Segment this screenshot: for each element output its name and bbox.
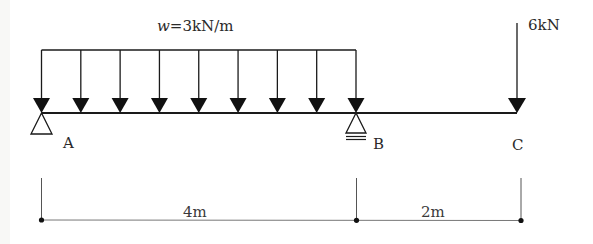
point-load-label: 6kN [528,16,560,34]
load-arrowhead-icon [33,98,50,113]
point-label-a: A [62,134,74,152]
load-arrows [33,50,365,113]
dimension-label-ab: 4m [183,203,207,221]
dim-dot-b [354,218,359,223]
dim-dot-a [39,217,44,222]
distributed-load [33,50,365,113]
load-arrowhead-icon [269,98,286,113]
load-arrowhead-icon [190,98,207,113]
load-arrowhead-icon [72,98,89,113]
load-arrowhead-icon [112,98,129,113]
load-arrowhead-icon [348,98,365,113]
roller-support-b [346,113,366,140]
pin-support-a [31,113,52,134]
distributed-load-label: w=3kN/m [157,17,233,35]
beam-diagram: w=3kN/m 6kN A B C 4m 2m [0,0,593,244]
load-arrowhead-icon [151,98,168,113]
load-arrowhead-icon [308,98,325,113]
point-load-arrow [508,23,526,113]
point-label-b: B [373,135,384,153]
point-label-c: C [512,136,523,154]
load-arrowhead-icon [230,98,247,113]
dim-dot-c [518,218,523,223]
dimension-label-bc: 2m [421,203,445,221]
dimension-lines [39,178,524,223]
